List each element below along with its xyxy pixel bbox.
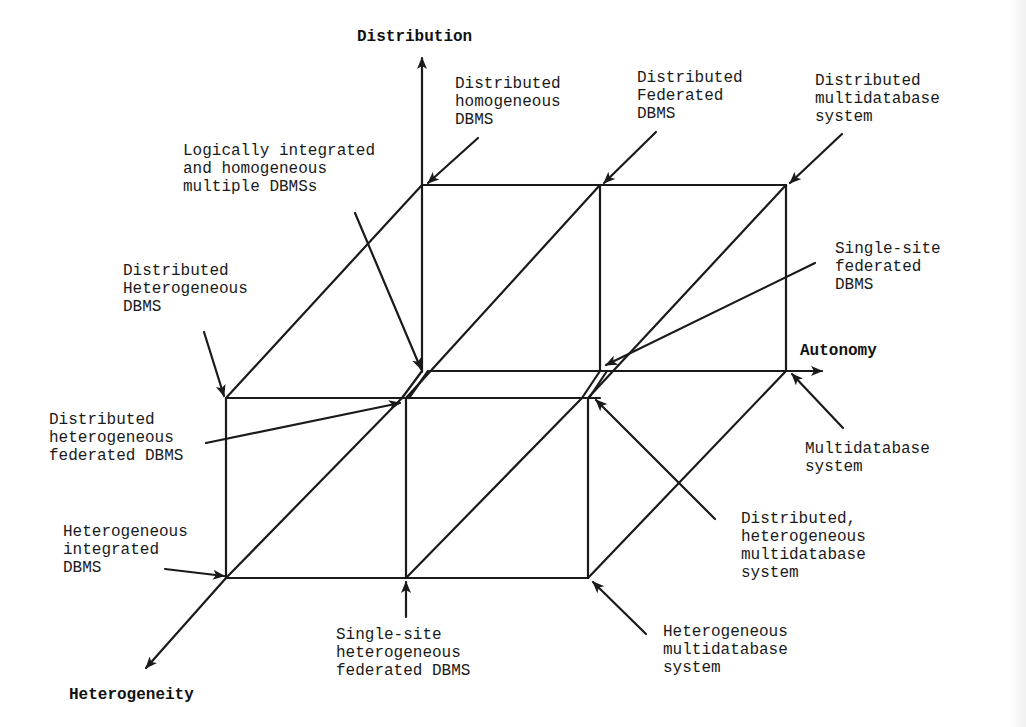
autonomy-axis-label: Autonomy xyxy=(800,342,877,360)
pointer-distributed-heterogeneous-multidatabase xyxy=(596,400,715,519)
label-distributed-heterogeneous: Distributed Heterogeneous DBMS xyxy=(123,262,248,316)
label-heterogeneous-integrated: Heterogeneous integrated DBMS xyxy=(63,523,188,577)
pointer-distributed-multidatabase xyxy=(790,134,842,183)
distribution-axis-label: Distribution xyxy=(357,28,472,46)
label-distributed-heterogeneous-federated: Distributed heterogeneous federated DBMS xyxy=(49,411,183,465)
pointer-multidatabase-system xyxy=(792,374,843,428)
label-distributed-federated: Distributed Federated DBMS xyxy=(637,69,743,123)
pointer-distributed-heterogeneous xyxy=(204,332,224,396)
pointer-logically-integrated xyxy=(355,213,421,369)
pointer-single-site-federated xyxy=(606,263,815,365)
heterogeneity-axis xyxy=(146,578,226,668)
pointer-heterogeneous-multidatabase xyxy=(593,582,646,634)
pointer-distributed-heterogeneous-federated xyxy=(206,403,400,443)
pointer-distributed-homogeneous xyxy=(428,138,478,183)
label-distributed-multidatabase: Distributed multidatabase system xyxy=(815,72,940,126)
heterogeneity-axis-label: Heterogeneity xyxy=(69,686,194,704)
label-single-site-federated: Single-site federated DBMS xyxy=(835,240,941,294)
dbms-classification-diagram: Distribution Autonomy Heterogeneity Dist… xyxy=(0,0,1026,727)
label-logically-integrated: Logically integrated and homogeneous mul… xyxy=(183,142,375,196)
label-multidatabase-system: Multidatabase system xyxy=(805,440,930,476)
label-heterogeneous-multidatabase: Heterogeneous multidatabase system xyxy=(663,623,788,677)
pointer-distributed-federated xyxy=(604,132,656,183)
page-edge-shadow xyxy=(1008,0,1026,727)
label-distributed-homogeneous: Distributed homogeneous DBMS xyxy=(455,75,561,129)
label-single-site-heterogeneous-federated: Single-site heterogeneous federated DBMS xyxy=(336,626,470,680)
label-distributed-heterogeneous-multidatabase: Distributed, heterogeneous multidatabase… xyxy=(741,510,866,582)
